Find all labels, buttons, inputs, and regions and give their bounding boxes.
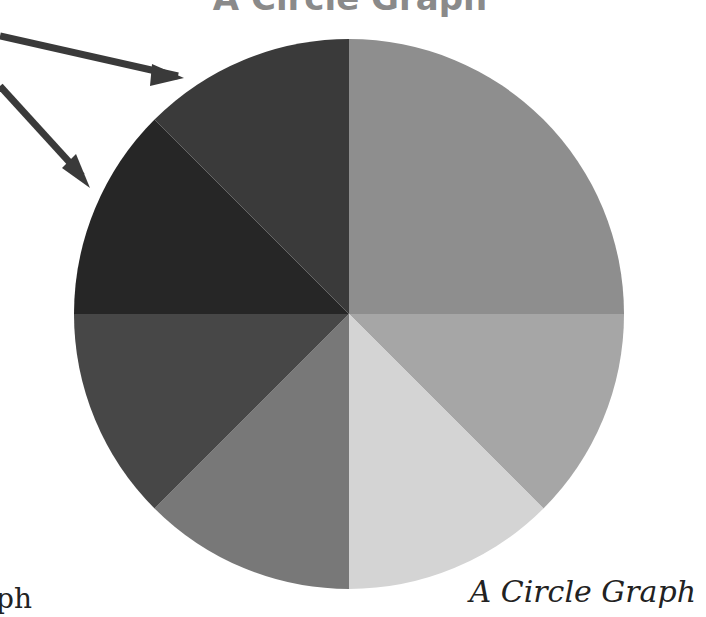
arrow-icon bbox=[0, 36, 178, 76]
pie-slices bbox=[74, 39, 624, 589]
pie-chart bbox=[0, 0, 706, 617]
arrowhead-icon bbox=[150, 64, 184, 86]
cut-off-text: ph bbox=[0, 582, 32, 615]
pie-slice-1 bbox=[349, 39, 624, 314]
chart-caption: A Circle Graph bbox=[470, 574, 697, 609]
